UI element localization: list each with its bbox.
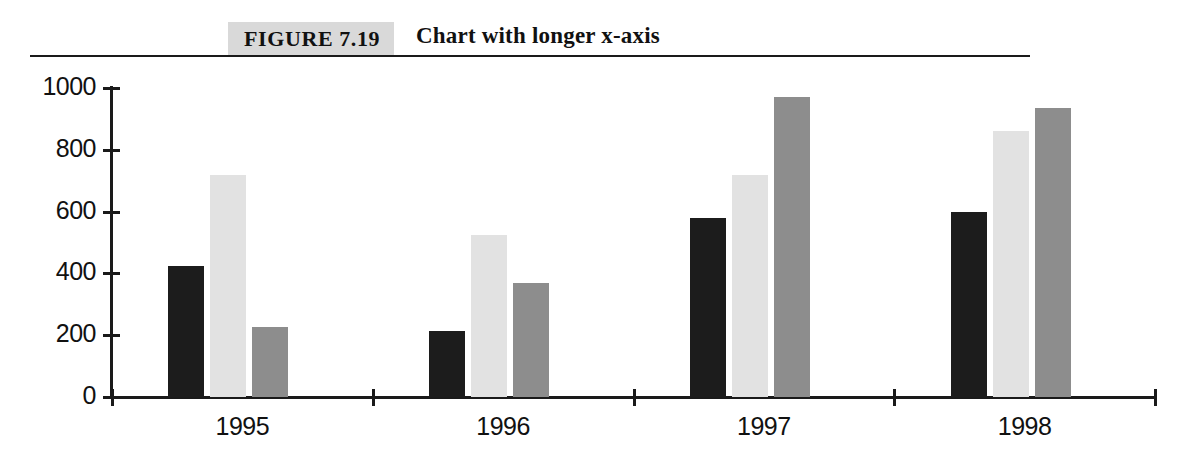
y-axis-tick-label: 800 (0, 134, 96, 163)
bar-1997-series-1 (690, 218, 726, 397)
y-axis-tick-label: 1000 (0, 72, 96, 101)
bar-1998-series-2 (993, 131, 1029, 397)
bar-1995-series-2 (210, 175, 246, 397)
bar-chart: 02004006008001000 1995199619971998 (0, 0, 1190, 471)
y-axis-tick-label: 200 (0, 319, 96, 348)
x-axis-tick-label: 1996 (403, 412, 603, 441)
bar-1997-series-3 (774, 97, 810, 397)
bar-1996-series-3 (513, 283, 549, 397)
bar-1996-series-1 (429, 331, 465, 397)
bar-1995-series-1 (168, 266, 204, 397)
bar-1996-series-2 (471, 235, 507, 397)
bar-1998-series-1 (951, 212, 987, 397)
y-axis-tick-label: 0 (0, 381, 96, 410)
x-axis-tick-label: 1998 (925, 412, 1125, 441)
y-axis-tick-label: 600 (0, 196, 96, 225)
bar-1997-series-2 (732, 175, 768, 397)
bar-1995-series-3 (252, 327, 288, 397)
x-axis-tick-label: 1997 (664, 412, 864, 441)
y-axis-tick-label: 400 (0, 257, 96, 286)
bar-1998-series-3 (1035, 108, 1071, 397)
plot-area (112, 88, 1155, 397)
x-axis-tick-label: 1995 (142, 412, 342, 441)
